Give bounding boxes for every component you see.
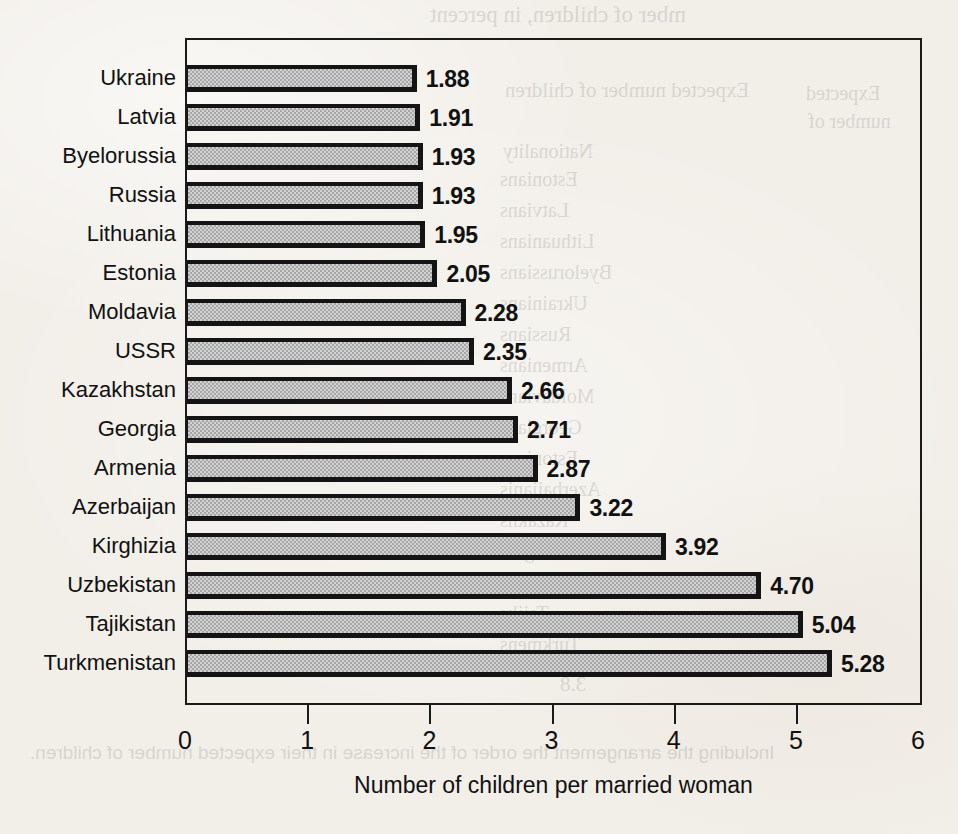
category-label-moldavia: Moldavia: [0, 292, 176, 331]
bar-azerbaijan[interactable]: [187, 494, 580, 521]
bar-row: 2.71: [187, 409, 920, 448]
bar-georgia[interactable]: [187, 416, 518, 443]
axis-tick-label: 4: [667, 726, 681, 755]
category-label-lithuania: Lithuania: [0, 214, 176, 253]
bar-value-label: 2.35: [483, 339, 527, 366]
bar-ukraine[interactable]: [187, 65, 417, 92]
bar-row: 2.66: [187, 370, 920, 409]
axis-tick: [429, 705, 431, 724]
axis-tick-label: 2: [422, 726, 436, 755]
bar-row: 2.28: [187, 292, 920, 331]
bar-value-label: 5.04: [812, 612, 856, 639]
bar-row: 1.88: [187, 58, 920, 97]
bar-value-label: 2.05: [446, 261, 490, 288]
bar-russia[interactable]: [187, 182, 423, 209]
category-label-tajikistan: Tajikistan: [0, 604, 176, 643]
category-axis-labels: UkraineLatviaByelorussiaRussiaLithuaniaE…: [0, 40, 176, 703]
bar-value-label: 4.70: [770, 573, 814, 600]
bar-row: 5.04: [187, 604, 920, 643]
bleed-text-header: mber of children, in percent: [430, 2, 686, 28]
bar-row: 1.91: [187, 97, 920, 136]
category-label-byelorussia: Byelorussia: [0, 136, 176, 175]
bar-uzbekistan[interactable]: [187, 572, 761, 599]
bar-value-label: 1.91: [429, 105, 473, 132]
bar-row: 5.28: [187, 643, 920, 682]
category-label-ukraine: Ukraine: [0, 58, 176, 97]
bars-container: 1.881.911.931.931.952.052.282.352.662.71…: [187, 40, 920, 703]
category-label-georgia: Georgia: [0, 409, 176, 448]
category-label-turkmenistan: Turkmenistan: [0, 643, 176, 682]
axis-tick-label: 0: [178, 726, 192, 755]
bar-row: 2.87: [187, 448, 920, 487]
bar-latvia[interactable]: [187, 104, 420, 131]
bar-row: 3.22: [187, 487, 920, 526]
bar-value-label: 3.92: [675, 534, 719, 561]
bar-value-label: 2.71: [527, 417, 571, 444]
bar-lithuania[interactable]: [187, 221, 425, 248]
bar-row: 1.95: [187, 214, 920, 253]
bar-value-label: 3.22: [589, 495, 633, 522]
chart-page: mber of children, in percent Expected nu…: [0, 0, 958, 834]
axis-tick: [674, 705, 676, 724]
bar-value-label: 1.88: [426, 66, 470, 93]
bar-turkmenistan[interactable]: [187, 650, 832, 677]
bar-value-label: 5.28: [841, 651, 885, 678]
bar-byelorussia[interactable]: [187, 143, 423, 170]
bar-armenia[interactable]: [187, 455, 538, 482]
bar-value-label: 2.28: [475, 300, 519, 327]
category-label-estonia: Estonia: [0, 253, 176, 292]
axis-tick-label: 1: [300, 726, 314, 755]
bar-value-label: 1.93: [432, 144, 476, 171]
bar-value-label: 2.66: [521, 378, 565, 405]
bar-estonia[interactable]: [187, 260, 437, 287]
category-label-latvia: Latvia: [0, 97, 176, 136]
category-label-russia: Russia: [0, 175, 176, 214]
axis-tick-label: 6: [911, 726, 925, 755]
bar-ussr[interactable]: [187, 338, 474, 365]
bar-row: 2.05: [187, 253, 920, 292]
bar-row: 3.92: [187, 526, 920, 565]
category-label-kazakhstan: Kazakhstan: [0, 370, 176, 409]
bar-moldavia[interactable]: [187, 299, 466, 326]
bar-kirghizia[interactable]: [187, 533, 666, 560]
bar-value-label: 2.87: [547, 456, 591, 483]
category-label-armenia: Armenia: [0, 448, 176, 487]
category-label-kirghizia: Kirghizia: [0, 526, 176, 565]
bar-row: 1.93: [187, 175, 920, 214]
bar-row: 4.70: [187, 565, 920, 604]
value-axis: 0123456: [185, 705, 922, 765]
axis-title: Number of children per married woman: [185, 772, 922, 799]
bar-value-label: 1.95: [434, 222, 478, 249]
axis-tick: [796, 705, 798, 724]
axis-tick-label: 3: [545, 726, 559, 755]
axis-tick-label: 5: [789, 726, 803, 755]
bar-value-label: 1.93: [432, 183, 476, 210]
axis-tick: [552, 705, 554, 724]
bar-row: 2.35: [187, 331, 920, 370]
category-label-ussr: USSR: [0, 331, 176, 370]
bar-row: 1.93: [187, 136, 920, 175]
bar-kazakhstan[interactable]: [187, 377, 512, 404]
axis-tick: [307, 705, 309, 724]
category-label-azerbaijan: Azerbaijan: [0, 487, 176, 526]
category-label-uzbekistan: Uzbekistan: [0, 565, 176, 604]
bar-tajikistan[interactable]: [187, 611, 803, 638]
